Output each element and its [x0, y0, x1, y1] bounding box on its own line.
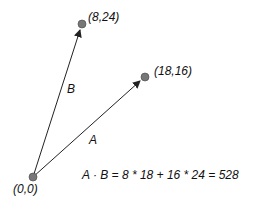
- vector-dot-product-diagram: (8,24) (18,16) (0,0) B A A · B = 8 * 18 …: [0, 0, 265, 207]
- origin-point: [29, 173, 37, 181]
- a-tip-label: (18,16): [154, 64, 192, 78]
- vector-b-label: B: [67, 82, 75, 96]
- vector-a-line: [33, 81, 140, 177]
- origin-label: (0,0): [13, 182, 38, 196]
- a-tip-point: [141, 73, 149, 81]
- dot-product-equation: A · B = 8 * 18 + 16 * 24 = 528: [82, 168, 239, 182]
- b-tip-label: (8,24): [88, 10, 119, 24]
- b-tip-point: [78, 20, 86, 28]
- vector-a-label: A: [89, 133, 97, 147]
- vector-b-line: [33, 30, 80, 177]
